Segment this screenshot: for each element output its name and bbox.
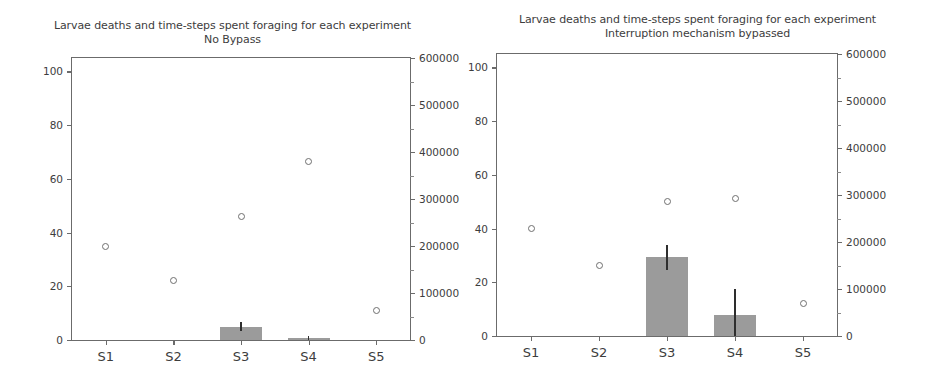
y2-axis-minor-tick [410, 270, 414, 271]
y2-axis-tick [410, 293, 415, 294]
chart-title-line-1: Larvae deaths and time-steps spent forag… [0, 19, 465, 33]
x-axis-tick-label-s5: S5 [368, 349, 385, 364]
x-axis-tick-label-s2: S2 [591, 345, 608, 360]
x-axis-tick [173, 340, 174, 345]
y-axis-tick-label: 0 [481, 330, 488, 342]
chart-panel-bypassed: Larvae deaths and time-steps spent forag… [465, 0, 930, 390]
y-axis-tick-label: 80 [475, 115, 488, 127]
figure: Larvae deaths and time-steps spent forag… [0, 0, 930, 390]
y2-axis-tick [410, 246, 415, 247]
data-point-s1 [102, 243, 109, 250]
chart-title-no-bypass: Larvae deaths and time-steps spent forag… [0, 19, 465, 47]
y2-axis-tick-label: 0 [846, 330, 853, 342]
y-axis-tick-label: 0 [56, 334, 63, 346]
data-point-s1 [528, 225, 535, 232]
y2-axis-tick-label: 200000 [419, 240, 459, 252]
y2-axis-minor-tick [837, 266, 841, 267]
x-axis-tick [531, 336, 532, 341]
y2-axis-minor-tick [837, 313, 841, 314]
x-axis-tick-label-s3: S3 [659, 345, 676, 360]
y2-axis-tick [410, 152, 415, 153]
chart-title-bypassed: Larvae deaths and time-steps spent forag… [465, 13, 930, 41]
y-axis-tick-label: 100 [468, 61, 488, 73]
y2-axis-tick-label: 100000 [846, 283, 886, 295]
y-axis-tick-label: 80 [50, 119, 63, 131]
y2-axis-tick [410, 199, 415, 200]
y2-axis-tick-label: 300000 [846, 189, 886, 201]
plot-frame-bypassed: 0204060801000100000200000300000400000500… [496, 53, 838, 337]
x-axis-tick [309, 340, 310, 345]
x-axis-tick-label-s1: S1 [523, 345, 540, 360]
y2-axis-tick-label: 100000 [419, 287, 459, 299]
y2-axis-tick-label: 0 [419, 334, 426, 346]
y2-axis-tick [837, 336, 842, 337]
error-bar-s3 [666, 245, 668, 270]
y2-axis-minor-tick [837, 172, 841, 173]
y2-axis-tick [410, 340, 415, 341]
y2-axis-minor-tick [837, 78, 841, 79]
y2-axis-minor-tick [410, 223, 414, 224]
x-axis-tick-label-s4: S4 [300, 349, 317, 364]
y-axis-tick-label: 100 [43, 65, 63, 77]
y-axis-tick [492, 336, 497, 337]
y-axis-tick-label: 60 [475, 169, 488, 181]
y-axis-tick-label: 40 [50, 227, 63, 239]
y2-axis-tick [837, 289, 842, 290]
y2-axis-tick-label: 600000 [846, 48, 886, 60]
y2-axis-tick-label: 200000 [846, 236, 886, 248]
x-axis-tick-label-s4: S4 [727, 345, 744, 360]
data-point-s5 [373, 307, 380, 314]
y2-axis-minor-tick [410, 317, 414, 318]
y-axis-tick-label: 20 [475, 276, 488, 288]
y2-axis-minor-tick [837, 125, 841, 126]
error-bar-s3 [240, 322, 242, 331]
x-axis-tick-label-s2: S2 [165, 349, 182, 364]
chart-subtitle: No Bypass [0, 33, 465, 47]
data-point-s4 [732, 195, 739, 202]
y2-axis-minor-tick [410, 176, 414, 177]
y-axis-tick [492, 282, 497, 283]
y2-axis-tick [837, 242, 842, 243]
x-axis-tick [803, 336, 804, 341]
chart-subtitle: Interruption mechanism bypassed [465, 27, 930, 41]
chart-title-line-1: Larvae deaths and time-steps spent forag… [465, 13, 930, 27]
y-axis-tick [492, 67, 497, 68]
y2-axis-tick [837, 54, 842, 55]
data-point-s4 [305, 158, 312, 165]
x-axis-tick [106, 340, 107, 345]
plot-area-bypassed: 0204060801000100000200000300000400000500… [497, 54, 837, 336]
y-axis-tick [492, 175, 497, 176]
data-point-s3 [664, 198, 671, 205]
y2-axis-tick-label: 500000 [846, 95, 886, 107]
y-axis-tick [67, 71, 72, 72]
y2-axis-minor-tick [410, 82, 414, 83]
y2-axis-tick-label: 400000 [846, 142, 886, 154]
y-axis-tick [67, 286, 72, 287]
y-axis-tick [67, 179, 72, 180]
y-axis-tick [67, 340, 72, 341]
x-axis-tick [667, 336, 668, 341]
y-axis-tick-label: 60 [50, 173, 63, 185]
y2-axis-tick [837, 101, 842, 102]
x-axis-tick-label-s5: S5 [795, 345, 812, 360]
y2-axis-tick [410, 58, 415, 59]
y-axis-tick [67, 233, 72, 234]
error-bar-s4 [308, 336, 310, 340]
y2-axis-tick-label: 600000 [419, 52, 459, 64]
x-axis-tick [599, 336, 600, 341]
plot-frame-no-bypass: 0204060801000100000200000300000400000500… [71, 57, 411, 341]
y2-axis-tick-label: 400000 [419, 146, 459, 158]
y-axis-tick-label: 20 [50, 280, 63, 292]
y2-axis-tick [837, 195, 842, 196]
x-axis-tick-label-s1: S1 [98, 349, 115, 364]
error-bar-s4 [734, 289, 736, 336]
y2-axis-tick-label: 500000 [419, 99, 459, 111]
x-axis-tick [241, 340, 242, 345]
y-axis-tick [492, 121, 497, 122]
y2-axis-minor-tick [837, 219, 841, 220]
data-point-s2 [170, 277, 177, 284]
y2-axis-tick-label: 300000 [419, 193, 459, 205]
y2-axis-tick [837, 148, 842, 149]
x-axis-tick [735, 336, 736, 341]
y2-axis-minor-tick [410, 129, 414, 130]
